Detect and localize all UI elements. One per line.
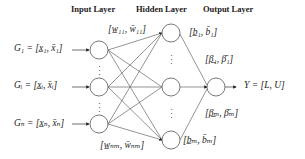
input-node-i [90, 78, 108, 96]
beta-label-bottom: [β̲ₘ, β̄ₘ] [205, 107, 238, 118]
hidden-node-1 [162, 24, 180, 42]
output-label: Y = [L, U] [244, 80, 285, 90]
weight-label-bottom: [w̲ₙₘ, w̄ₙₘ] [100, 139, 144, 150]
input-label-1: G₁ = [x̲₁, x̄₁] [14, 43, 63, 53]
nodes [90, 24, 225, 149]
input-node-n [90, 115, 108, 133]
output-layer-header: Output Layer [203, 4, 253, 14]
hidden-layer-header: Hidden Layer [136, 4, 187, 14]
bias-label-top: [b̲₁, b̄₁] [189, 27, 217, 37]
connections [108, 33, 207, 140]
input-label-i: Gᵢ = [x̲ᵢ, x̄ᵢ] [14, 80, 57, 90]
weight-label-top: [w̲₁₁, w̄₁₁] [108, 24, 146, 34]
input-layer-header: Input Layer [71, 4, 115, 14]
hidden-ellipsis-2: ··· [170, 107, 173, 119]
output-node [207, 78, 225, 96]
input-ellipsis-1: ··· [98, 64, 101, 76]
input-label-n: Gₙ = [x̲ₙ, x̄ₙ] [14, 117, 64, 128]
input-ellipsis-2: ··· [98, 101, 101, 113]
hidden-ellipsis-1: ··· [170, 53, 173, 65]
hidden-node-m [162, 131, 180, 149]
beta-label-top: [β̲₁, β̄₁] [205, 54, 233, 64]
input-node-1 [90, 41, 108, 59]
hidden-node-j [162, 78, 180, 96]
bias-label-bottom: [b̲ₘ, b̄ₘ] [183, 134, 216, 145]
